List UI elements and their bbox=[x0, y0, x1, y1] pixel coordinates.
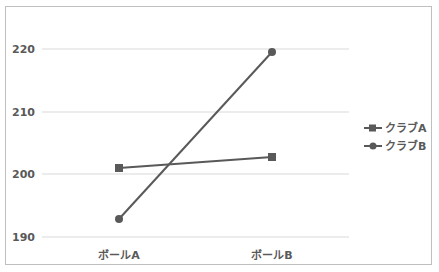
series-club-a bbox=[115, 153, 276, 172]
square-marker-icon bbox=[369, 125, 376, 132]
legend-label-club-b: クラブB bbox=[385, 139, 426, 153]
y-tick-200: 200 bbox=[12, 168, 35, 181]
y-axis-labels: 220 210 200 190 bbox=[12, 43, 35, 244]
legend-item-club-a: クラブA bbox=[364, 121, 427, 135]
legend: クラブA クラブB bbox=[364, 121, 427, 153]
x-axis-labels: ボールA ボールB bbox=[98, 248, 292, 262]
square-marker-icon bbox=[115, 164, 123, 172]
square-marker-icon bbox=[268, 153, 276, 161]
x-label-ball-b: ボールB bbox=[251, 248, 292, 262]
y-tick-220: 220 bbox=[12, 43, 35, 56]
y-tick-210: 210 bbox=[12, 106, 35, 119]
legend-item-club-b: クラブB bbox=[364, 139, 426, 153]
circle-marker-icon bbox=[268, 48, 276, 56]
line-chart: 220 210 200 190 ボールA ボールB クラブA クラブB bbox=[0, 0, 439, 272]
series-club-b bbox=[115, 48, 276, 223]
gridlines bbox=[42, 49, 349, 237]
x-label-ball-a: ボールA bbox=[98, 248, 140, 262]
y-tick-190: 190 bbox=[12, 231, 35, 244]
circle-marker-icon bbox=[115, 215, 123, 223]
legend-label-club-a: クラブA bbox=[385, 121, 427, 135]
circle-marker-icon bbox=[370, 143, 377, 150]
